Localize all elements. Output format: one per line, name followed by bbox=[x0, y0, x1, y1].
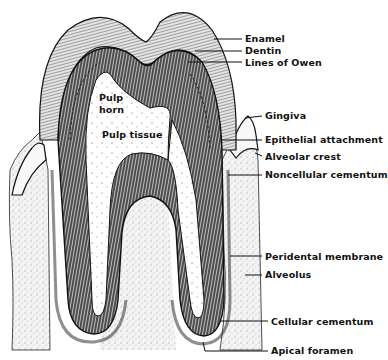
label-pulp-horn-line2: horn bbox=[99, 104, 124, 115]
label-pulp-tissue: Pulp tissue bbox=[102, 129, 163, 140]
label-pulp-horn-line1: Pulp bbox=[99, 92, 123, 103]
label-enamel: Enamel bbox=[245, 33, 285, 44]
label-alveolus: Alveolus bbox=[265, 269, 311, 280]
label-alveolar-crest: Alveolar crest bbox=[265, 151, 341, 162]
label-lines-of-owen: Lines of Owen bbox=[245, 57, 322, 68]
label-gingiva: Gingiva bbox=[265, 110, 306, 121]
label-peridental-membrane: Peridental membrane bbox=[265, 251, 383, 262]
label-apical-foramen: Apical foramen bbox=[271, 345, 353, 356]
label-epithelial-attachment: Epithelial attachment bbox=[265, 134, 383, 145]
label-dentin: Dentin bbox=[245, 45, 281, 56]
alveolar-bone-right bbox=[220, 125, 262, 350]
label-cellular-cementum: Cellular cementum bbox=[271, 316, 373, 327]
label-noncellular-cementum: Noncellular cementum bbox=[265, 169, 388, 180]
